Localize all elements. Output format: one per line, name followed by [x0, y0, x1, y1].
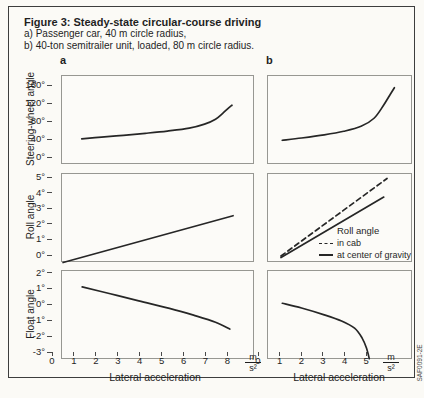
legend-label-at-center-of-gravity: at center of gravity	[337, 249, 411, 261]
figure-code: SAF0091-2E	[416, 344, 423, 381]
ytick-mark	[47, 177, 52, 178]
ytick-label: 1°	[3, 234, 45, 244]
xtick-label: 3	[109, 356, 127, 366]
plot-float-angle-car-canvas	[62, 271, 253, 358]
curve-float-car	[82, 287, 230, 329]
ytick-mark	[47, 85, 52, 86]
x-unit-b: m s²	[383, 353, 399, 373]
ytick-mark	[47, 304, 52, 305]
xtick-label: 4	[336, 356, 354, 366]
ytick-mark	[47, 139, 52, 140]
column-label-a: a	[60, 54, 66, 66]
plot-float-angle-car	[61, 270, 254, 359]
xtick-label: 7	[197, 356, 215, 366]
xaxis-label-a: Lateral acceleration	[109, 371, 201, 383]
curve-roll-car	[63, 216, 233, 263]
figure-subtitle-a: a) Passenger car, 40 m circle radius,	[24, 28, 261, 40]
xtick-label: 1	[65, 356, 83, 366]
figure-header: Figure 3: Steady-state circular-course d…	[24, 16, 261, 51]
xtick-label: 5	[357, 356, 375, 366]
unit-denominator: s²	[383, 363, 399, 373]
legend: Roll angle in cab at center of gravity	[319, 225, 411, 261]
ytick-label: 120°	[3, 98, 45, 108]
legend-solid-line-sample	[319, 254, 333, 256]
ytick-label: 160°	[3, 80, 45, 90]
xtick-label: 2	[292, 356, 310, 366]
legend-title: Roll angle	[337, 225, 411, 237]
xtick-label: 8	[218, 356, 236, 366]
column-label-b: b	[266, 54, 273, 66]
curve-float-truck	[282, 303, 369, 358]
ytick-mark	[47, 223, 52, 224]
xtick-label: 6	[175, 356, 193, 366]
ylabel-roll-angle: Roll angle	[25, 195, 36, 239]
xtick-label: 3	[314, 356, 332, 366]
xtick-label: 0	[249, 356, 267, 366]
legend-entry-in-cab: in cab	[319, 237, 411, 249]
legend-label-in-cab: in cab	[337, 237, 361, 249]
plot-float-angle-truck	[267, 270, 412, 359]
ytick-mark	[47, 288, 52, 289]
figure-page: Figure 3: Steady-state circular-course d…	[0, 0, 424, 398]
ytick-mark	[47, 192, 52, 193]
curve-steering-car	[82, 105, 232, 139]
curve-steering-truck	[282, 88, 394, 141]
legend-entry-center-of-gravity: at center of gravity	[319, 249, 411, 261]
ytick-mark	[47, 239, 52, 240]
ytick-label: 0°	[3, 299, 45, 309]
unit-numerator: m	[383, 353, 399, 363]
figure-title: Figure 3: Steady-state circular-course d…	[24, 16, 261, 28]
xtick-label: 1	[271, 356, 289, 366]
plot-roll-angle-car	[61, 173, 254, 262]
ytick-label: 2°	[3, 268, 45, 278]
legend-dashed-line-sample	[319, 243, 333, 244]
plot-steering-angle-truck-canvas	[268, 76, 411, 163]
ytick-mark	[47, 103, 52, 104]
ytick-mark	[47, 255, 52, 256]
figure-subtitle-b: b) 40-ton semitrailer unit, loaded, 80 m…	[24, 40, 261, 52]
ytick-mark	[47, 121, 52, 122]
ytick-mark	[47, 208, 52, 209]
ytick-label: 1°	[3, 283, 45, 293]
ytick-label: -2°	[3, 331, 45, 341]
ytick-label: 4°	[3, 188, 45, 198]
ytick-label: 5°	[3, 172, 45, 182]
xtick-label: 5	[153, 356, 171, 366]
xaxis-label-b: Lateral acceleration	[293, 371, 385, 383]
ytick-label: -3°	[3, 347, 45, 357]
plot-float-angle-truck-canvas	[268, 271, 411, 358]
ytick-mark	[47, 336, 52, 337]
ytick-label: 2°	[3, 219, 45, 229]
plot-steering-angle-truck	[267, 75, 412, 164]
ytick-mark	[47, 157, 52, 158]
ytick-label: 0°	[3, 152, 45, 162]
ytick-mark	[47, 320, 52, 321]
plot-roll-angle-car-canvas	[62, 174, 253, 261]
ytick-mark	[47, 272, 52, 273]
ytick-label: 0°	[3, 250, 45, 260]
ytick-label: 80°	[3, 116, 45, 126]
plot-steering-angle-car-canvas	[62, 76, 253, 163]
plot-steering-angle-car	[61, 75, 254, 164]
ytick-label: 40°	[3, 134, 45, 144]
xtick-label: 4	[131, 356, 149, 366]
xtick-label: 2	[87, 356, 105, 366]
ytick-label: -1°	[3, 315, 45, 325]
figure-frame: Figure 3: Steady-state circular-course d…	[8, 6, 415, 378]
xtick-label: 0	[43, 356, 61, 366]
ytick-label: 3°	[3, 203, 45, 213]
